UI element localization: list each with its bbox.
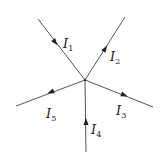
label-i1: I1 (62, 36, 73, 53)
wire-i4 (85, 80, 86, 152)
arrow-i4-icon (84, 118, 89, 125)
wire-i1 (38, 19, 85, 80)
label-i4: I4 (90, 122, 101, 139)
label-i3: I3 (115, 103, 126, 120)
junction-diagram: I1 I2 I3 I4 I5 (0, 0, 167, 161)
label-i2: I2 (109, 49, 120, 66)
label-i5: I5 (45, 106, 56, 123)
junction-node (84, 79, 86, 81)
arrow-i5-icon (46, 89, 54, 96)
arrow-i3-icon (120, 92, 128, 99)
